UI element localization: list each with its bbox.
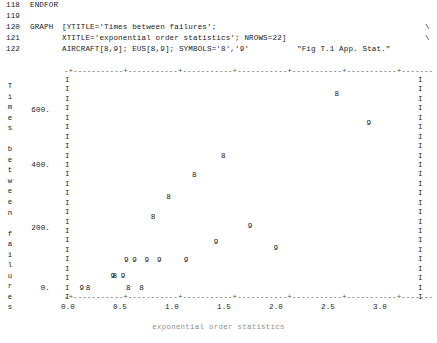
line-number: 118: [6, 0, 20, 11]
y-tick-label: 0.: [8, 284, 50, 293]
data-point: 8: [221, 152, 226, 161]
plot-border-char: I: [65, 85, 70, 94]
line-continuation: \: [425, 33, 430, 44]
data-point: 9: [110, 272, 115, 281]
y-axis-title-char: i: [4, 250, 16, 261]
y-axis-title-char: n: [4, 208, 16, 219]
ascii-scatter-plot: Times between failures 600. 400. 200. 0.…: [0, 60, 437, 343]
line-number: 120: [6, 22, 20, 33]
code-line: 122 AIRCRAFT[8,9]; EUS[8,9]; SYMBOLS='8'…: [0, 44, 437, 55]
plot-border-char: I: [418, 218, 423, 227]
plot-border-char: I: [65, 114, 70, 123]
code-line: 121 XTITLE='exponential order statistics…: [0, 33, 437, 44]
y-axis-title-char: u: [4, 271, 16, 282]
plot-top-rule: -+-----------+-----------+-----------+--…: [64, 67, 433, 76]
y-axis-title-char: e: [4, 186, 16, 197]
plot-border-char: I: [418, 274, 423, 283]
plot-border-char: I: [65, 76, 70, 85]
plot-left-border: IIIIIIIIIIIIIIIIIIIIIIII: [65, 76, 70, 303]
x-axis-ticks: 0.0 0.5 1.0 1.5 2.0 2.5 3.0: [0, 303, 437, 315]
plot-border-char: I: [418, 180, 423, 189]
plot-border-char: I: [418, 152, 423, 161]
plot-border-char: I: [65, 293, 70, 302]
x-tick-label: 1.0: [157, 303, 187, 311]
code-listing: 118 ENDFOR 119 120 GRAPH [YTITLE='Times …: [0, 0, 437, 55]
plot-border-char: I: [418, 142, 423, 151]
data-point: 9: [214, 238, 219, 247]
plot-border-char: I: [418, 199, 423, 208]
plot-border-char: I: [65, 95, 70, 104]
plot-border-char: I: [65, 265, 70, 274]
line-keyword: ENDFOR: [30, 0, 58, 11]
data-point: 9: [145, 256, 150, 265]
plot-border-char: I: [65, 227, 70, 236]
y-axis-title-char: l: [4, 260, 16, 271]
line-arguments: AIRCRAFT[8,9]; EUS[8,9]; SYMBOLS='8','9': [62, 44, 249, 55]
data-point: 8: [139, 284, 144, 293]
line-arguments: XTITLE='exponential order statistics'; N…: [62, 33, 287, 44]
plot-border-char: I: [418, 255, 423, 264]
data-point: 9: [248, 222, 253, 231]
line-number: 122: [6, 44, 20, 55]
plot-border-char: I: [65, 284, 70, 293]
plot-border-char: I: [418, 246, 423, 255]
line-note: "Fig T.1 App. Stat.": [297, 44, 391, 55]
plot-right-border: IIIIIIIIIIIIIIIIIIIIIIII: [418, 76, 423, 303]
data-point: 9: [79, 284, 84, 293]
plot-border-char: I: [65, 189, 70, 198]
plot-border-char: I: [418, 293, 423, 302]
data-point: 9: [184, 256, 189, 265]
x-tick-label: 3.0: [365, 303, 395, 311]
plot-border-char: I: [65, 142, 70, 151]
line-number: 119: [6, 11, 20, 22]
plot-border-char: I: [65, 170, 70, 179]
line-number: 121: [6, 33, 20, 44]
data-point: 9: [157, 256, 162, 265]
plot-border-char: I: [65, 274, 70, 283]
y-axis-title-char: w: [4, 176, 16, 187]
plot-bottom-rule: -+-----------+-----------+-----------+--…: [64, 293, 433, 302]
plot-border-char: I: [65, 246, 70, 255]
plot-border-char: I: [418, 265, 423, 274]
data-point: 9: [366, 119, 371, 128]
y-axis-title: Times between failures: [4, 81, 16, 313]
plot-border-char: I: [418, 208, 423, 217]
plot-border-char: I: [65, 180, 70, 189]
y-axis-title-char: e: [4, 292, 16, 303]
plot-border-char: I: [65, 208, 70, 217]
y-axis-title-char: i: [4, 92, 16, 103]
data-point: 8: [192, 171, 197, 180]
plot-border-char: I: [418, 236, 423, 245]
code-line: 118 ENDFOR: [0, 0, 437, 11]
x-tick-label: 0.0: [53, 303, 83, 311]
line-continuation: \: [425, 22, 430, 33]
plot-border-char: I: [418, 85, 423, 94]
plot-border-char: I: [418, 104, 423, 113]
plot-border-char: I: [418, 284, 423, 293]
x-tick-label: 2.5: [313, 303, 343, 311]
plot-border-char: I: [65, 218, 70, 227]
plot-border-char: I: [65, 255, 70, 264]
code-line: 119: [0, 11, 437, 22]
y-tick-label: 600.: [8, 106, 50, 115]
code-line: 120 GRAPH [YTITLE='Times between failure…: [0, 22, 437, 33]
plot-border-char: I: [418, 170, 423, 179]
y-axis-title-char: a: [4, 239, 16, 250]
data-point: 8: [166, 193, 171, 202]
x-tick-label: 0.5: [105, 303, 135, 311]
y-axis-title-char: [4, 134, 16, 145]
data-point: 8: [151, 213, 156, 222]
plot-border-char: I: [418, 161, 423, 170]
line-keyword: GRAPH: [30, 22, 53, 33]
data-point: 9: [124, 256, 129, 265]
y-tick-label: 400.: [8, 161, 50, 170]
plot-border-char: I: [418, 114, 423, 123]
plot-border-char: I: [418, 227, 423, 236]
y-axis-title-char: e: [4, 197, 16, 208]
y-tick-label: 200.: [8, 224, 50, 233]
plot-border-char: I: [418, 76, 423, 85]
y-axis-title-char: s: [4, 123, 16, 134]
data-point: 8: [126, 284, 131, 293]
x-tick-label: 2.0: [261, 303, 291, 311]
data-point: 9: [121, 272, 126, 281]
